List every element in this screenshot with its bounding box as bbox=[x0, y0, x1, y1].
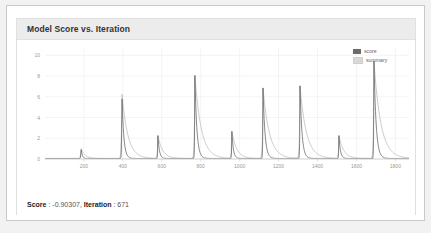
legend-label-score: score bbox=[364, 49, 377, 54]
legend-item-score[interactable]: score bbox=[353, 49, 409, 54]
status-iteration-key: Iteration bbox=[84, 201, 112, 208]
svg-text:8: 8 bbox=[37, 73, 40, 79]
window-frame: Model Score vs. Iteration 0246810 200400… bbox=[6, 5, 425, 221]
card-header: Model Score vs. Iteration bbox=[17, 19, 415, 40]
screenshot-root: Model Score vs. Iteration 0246810 200400… bbox=[0, 0, 431, 233]
svg-text:600: 600 bbox=[158, 163, 167, 169]
svg-text:2: 2 bbox=[37, 135, 40, 141]
svg-text:0: 0 bbox=[37, 156, 40, 162]
chart-card: Model Score vs. Iteration 0246810 200400… bbox=[16, 18, 416, 215]
svg-text:10: 10 bbox=[34, 52, 40, 58]
svg-text:1200: 1200 bbox=[273, 163, 284, 169]
status-readout: Score : -0.90307, Iteration : 671 bbox=[27, 201, 129, 208]
status-iteration-value: 671 bbox=[117, 201, 129, 208]
legend-label-summary: summary bbox=[366, 58, 387, 63]
svg-text:1000: 1000 bbox=[234, 163, 245, 169]
card-body: 0246810 20040060080010001200140016001800… bbox=[17, 41, 415, 216]
legend-swatch-summary bbox=[353, 57, 363, 64]
chart-plot-area[interactable]: 0246810 20040060080010001200140016001800… bbox=[17, 41, 417, 191]
legend-item-summary[interactable]: summary bbox=[353, 57, 409, 64]
y-axis-tick-labels: 0246810 bbox=[34, 52, 40, 162]
chart-legend: score summary bbox=[353, 49, 409, 67]
svg-text:200: 200 bbox=[80, 163, 89, 169]
svg-text:400: 400 bbox=[119, 163, 128, 169]
svg-text:1600: 1600 bbox=[351, 163, 362, 169]
page-title: Model Score vs. Iteration bbox=[27, 24, 130, 34]
series-score-line bbox=[45, 61, 409, 158]
svg-text:1800: 1800 bbox=[390, 163, 401, 169]
svg-text:800: 800 bbox=[197, 163, 206, 169]
svg-text:4: 4 bbox=[37, 115, 40, 121]
svg-text:6: 6 bbox=[37, 94, 40, 100]
status-score-key: Score bbox=[27, 201, 46, 208]
series-summary-line bbox=[45, 61, 409, 158]
x-axis-tick-labels: 20040060080010001200140016001800 bbox=[80, 159, 401, 169]
legend-swatch-score bbox=[353, 49, 361, 54]
svg-text:1400: 1400 bbox=[312, 163, 323, 169]
status-score-value: -0.90307 bbox=[52, 201, 80, 208]
